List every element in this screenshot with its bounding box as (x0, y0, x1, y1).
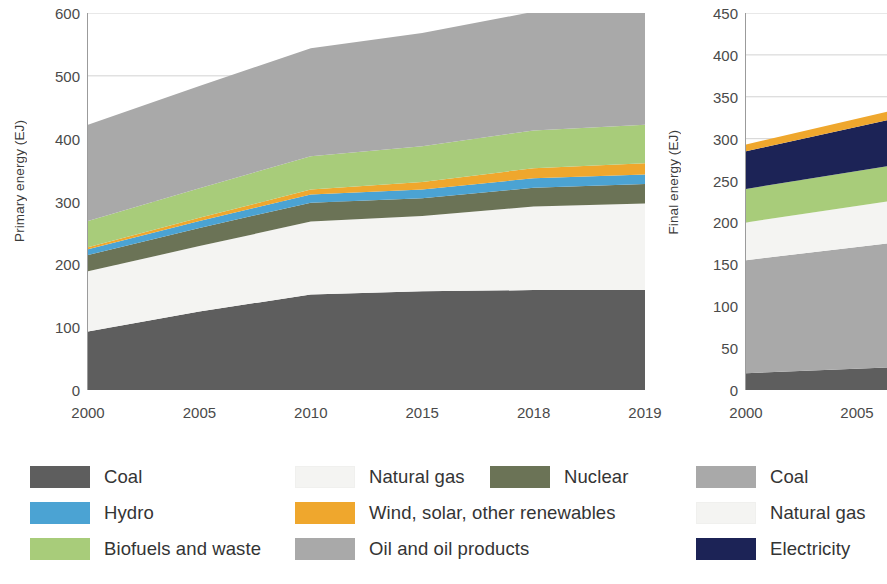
y-tick-label: 250 (684, 172, 738, 189)
y-tick-label: 100 (684, 298, 738, 315)
primary-energy-chart-panel: Primary energy (EJ) 0100200300400500600 … (0, 0, 660, 455)
legend-item[interactable]: Coal (696, 466, 808, 488)
legend-item[interactable]: Nuclear (490, 466, 628, 488)
legend-label: Hydro (104, 502, 154, 524)
legend-swatch-electricity (696, 538, 756, 560)
y-tick-label: 200 (684, 214, 738, 231)
legend-label: Nuclear (564, 466, 628, 488)
legend-swatch-hydro (30, 502, 90, 524)
legend-item[interactable]: Electricity (696, 538, 850, 560)
legend-swatch-nuclear (490, 466, 550, 488)
y-tick-label: 50 (684, 340, 738, 357)
legend-swatch-oil (295, 538, 355, 560)
legend-label: Oil and oil products (369, 538, 529, 560)
final-energy-plot-area (746, 13, 887, 390)
y-axis-line (87, 13, 88, 390)
legend-item[interactable]: Oil and oil products (295, 538, 529, 560)
y-tick-label: 300 (26, 193, 80, 210)
primary-energy-area-svg (88, 13, 645, 390)
x-tick-label: 2005 (840, 404, 873, 421)
x-tick-label: 2000 (729, 404, 762, 421)
legend-label: Coal (104, 466, 142, 488)
y-tick-label: 300 (684, 130, 738, 147)
y-tick-label: 450 (684, 5, 738, 22)
area-series-oil (746, 243, 887, 373)
legend-swatch-biofuels (30, 538, 90, 560)
final-energy-area-svg (746, 13, 887, 390)
x-tick-label: 2000 (71, 404, 104, 421)
legend-item[interactable]: Biofuels and waste (30, 538, 261, 560)
legend-label: Electricity (770, 538, 850, 560)
primary-energy-legend: CoalNatural gasNuclearHydroWind, solar, … (0, 458, 660, 584)
legend-swatch-oil (696, 466, 756, 488)
x-tick-label: 2005 (183, 404, 216, 421)
legend-item[interactable]: Hydro (30, 502, 154, 524)
y-tick-label: 600 (26, 5, 80, 22)
y-tick-label: 150 (684, 256, 738, 273)
y-tick-label: 400 (26, 130, 80, 147)
legend-swatch-coal (30, 466, 90, 488)
final-energy-legend: CoalNatural gasElectricity (660, 458, 887, 584)
legend-swatch-natural_gas (295, 466, 355, 488)
legend-swatch-wind_solar (295, 502, 355, 524)
legend-swatch-natural_gas (696, 502, 756, 524)
legend-label: Natural gas (770, 502, 866, 524)
legend-label: Wind, solar, other renewables (369, 502, 616, 524)
legend-item[interactable]: Coal (30, 466, 142, 488)
y-tick-label: 400 (684, 46, 738, 63)
x-tick-label: 2015 (406, 404, 439, 421)
final-energy-chart-panel: Final energy (EJ) 0501001502002503003504… (660, 0, 887, 455)
x-tick-label: 2010 (294, 404, 327, 421)
y-axis-label-final: Final energy (EJ) (666, 130, 681, 235)
legend-label: Coal (770, 466, 808, 488)
y-axis-line (745, 13, 746, 390)
x-tick-label: 2018 (517, 404, 550, 421)
y-tick-label: 0 (684, 382, 738, 399)
x-tick-label: 2019 (628, 404, 661, 421)
legend-label: Natural gas (369, 466, 465, 488)
y-tick-label: 100 (26, 319, 80, 336)
y-tick-label: 500 (26, 67, 80, 84)
y-tick-label: 0 (26, 382, 80, 399)
legend-label: Biofuels and waste (104, 538, 261, 560)
y-axis-label-primary: Primary energy (EJ) (12, 120, 27, 242)
y-tick-label: 350 (684, 88, 738, 105)
legend-item[interactable]: Natural gas (696, 502, 866, 524)
legend-item[interactable]: Natural gas (295, 466, 465, 488)
y-tick-label: 200 (26, 256, 80, 273)
primary-energy-plot-area (88, 13, 645, 390)
legend-item[interactable]: Wind, solar, other renewables (295, 502, 616, 524)
